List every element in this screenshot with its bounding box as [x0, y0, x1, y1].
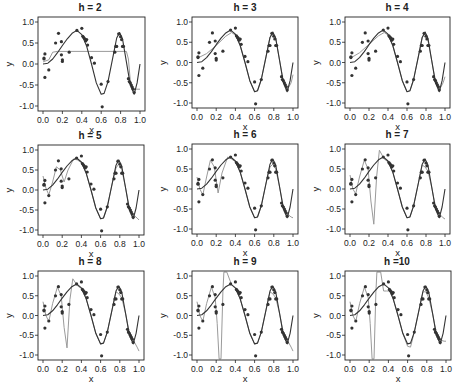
- data-point: [57, 285, 60, 288]
- x-tick-label: 0.2: [363, 112, 375, 122]
- y-tick-label: -0.5: [326, 78, 341, 88]
- x-tick-label: 0.6: [402, 364, 414, 374]
- data-point: [367, 185, 370, 188]
- panel-title: h = 8: [78, 256, 102, 267]
- data-point: [43, 327, 46, 330]
- y-tick-label: 1.0: [22, 145, 34, 155]
- data-point: [85, 165, 88, 168]
- data-point: [60, 293, 63, 296]
- data-point: [214, 293, 217, 296]
- data-point: [60, 167, 63, 170]
- data-point: [229, 29, 232, 32]
- data-point: [246, 313, 249, 316]
- y-tick-label: 1.0: [176, 17, 188, 27]
- x-tick-label: 1.0: [134, 115, 146, 125]
- data-point: [75, 29, 78, 32]
- data-point: [197, 304, 200, 307]
- data-point: [268, 297, 271, 300]
- x-tick-label: 0.4: [382, 364, 394, 374]
- x-tick-label: 0.0: [191, 364, 203, 374]
- data-point: [285, 338, 288, 341]
- data-points: [349, 27, 441, 106]
- data-point: [197, 51, 200, 54]
- data-point: [272, 161, 275, 164]
- data-point: [215, 312, 218, 315]
- data-point: [99, 333, 102, 336]
- x-tick-label: 0.0: [344, 364, 356, 374]
- data-point: [275, 171, 278, 174]
- x-tick-label: 0.4: [382, 112, 394, 122]
- data-point: [253, 333, 256, 336]
- data-point: [89, 182, 92, 185]
- data-point: [132, 216, 135, 219]
- data-point: [275, 44, 278, 47]
- data-point: [47, 68, 50, 71]
- y-tick-label: -0.5: [19, 80, 34, 90]
- data-point: [92, 188, 95, 191]
- data-point: [364, 158, 367, 161]
- data-point: [47, 319, 50, 322]
- data-point: [272, 288, 275, 291]
- data-point: [239, 37, 242, 40]
- data-point: [361, 167, 364, 170]
- data-point: [423, 159, 426, 162]
- panel-title: h = 7: [385, 129, 409, 140]
- x-tick-label: 0.6: [401, 238, 413, 248]
- data-points: [196, 153, 288, 231]
- data-point: [118, 162, 121, 165]
- data-point: [367, 59, 370, 62]
- data-point: [93, 62, 96, 65]
- data-point: [427, 171, 430, 174]
- data-point: [196, 56, 199, 59]
- data-point: [254, 102, 257, 105]
- x-tick-label: 0.8: [268, 238, 280, 248]
- data-point: [382, 155, 385, 158]
- x-tick-label: 1.0: [439, 238, 451, 248]
- x-tick-label: 1.0: [133, 364, 145, 374]
- x-axis-label: x: [396, 373, 401, 384]
- data-point: [349, 56, 352, 59]
- data-point: [215, 185, 218, 188]
- data-point: [240, 43, 243, 46]
- data-point: [406, 102, 409, 105]
- data-points: [196, 27, 288, 106]
- data-point: [61, 186, 64, 189]
- x-tick-label: 0.4: [76, 115, 88, 125]
- true-function-curve: [43, 284, 139, 344]
- data-point: [121, 297, 124, 300]
- x-tick-label: 0.6: [401, 112, 413, 122]
- x-tick-label: 0.2: [56, 364, 68, 374]
- data-point: [367, 166, 370, 169]
- data-point: [113, 51, 116, 54]
- y-tick-label: 0.5: [176, 164, 188, 174]
- data-point: [273, 291, 276, 294]
- y-tick-label: -1.0: [19, 101, 34, 111]
- data-point: [115, 45, 118, 48]
- data-point: [405, 207, 408, 210]
- data-point: [432, 75, 435, 78]
- data-point: [426, 291, 429, 294]
- data-point: [421, 297, 424, 300]
- data-point: [42, 184, 45, 187]
- data-point: [266, 50, 269, 53]
- y-tick-label: 0.0: [176, 58, 188, 68]
- panel: h =101.00.50.0-0.5-1.00.00.20.40.60.81.0…: [310, 256, 452, 384]
- data-point: [280, 328, 283, 331]
- data-point: [246, 187, 249, 190]
- data-point: [229, 155, 232, 158]
- data-point: [208, 167, 211, 170]
- data-point: [392, 43, 395, 46]
- y-tick-label: 0.0: [176, 184, 188, 194]
- y-tick-label: 1.0: [22, 271, 34, 281]
- data-point: [423, 32, 426, 35]
- data-point: [439, 341, 442, 344]
- data-point: [427, 44, 430, 47]
- y-tick-label: 0.0: [329, 311, 341, 321]
- x-tick-label: 0.0: [37, 364, 49, 374]
- data-point: [239, 164, 242, 167]
- x-tick-label: 0.8: [114, 239, 126, 249]
- data-point: [421, 171, 424, 174]
- data-point: [423, 286, 426, 289]
- data-point: [214, 179, 217, 182]
- data-point: [42, 309, 45, 312]
